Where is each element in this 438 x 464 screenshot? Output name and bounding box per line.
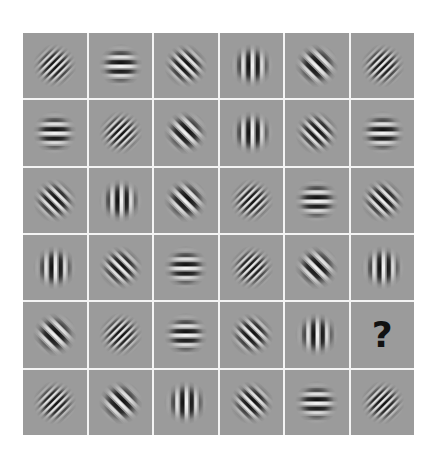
gabor-patch-icon — [285, 100, 349, 165]
gabor-cell[interactable] — [285, 235, 349, 300]
gabor-cell[interactable] — [23, 33, 87, 98]
gabor-cell[interactable] — [220, 33, 284, 98]
gabor-patch-icon — [23, 100, 87, 165]
gabor-patch-icon — [220, 33, 284, 98]
gabor-patch-icon — [220, 100, 284, 165]
gabor-cell[interactable] — [285, 33, 349, 98]
gabor-patch-icon — [220, 302, 284, 367]
gabor-patch-icon — [154, 168, 218, 233]
gabor-cell[interactable] — [23, 100, 87, 165]
gabor-patch-icon — [220, 235, 284, 300]
gabor-patch-icon — [154, 235, 218, 300]
gabor-patch-icon — [23, 33, 87, 98]
gabor-cell[interactable] — [285, 370, 349, 435]
gabor-patch-icon — [89, 33, 153, 98]
gabor-cell[interactable] — [351, 370, 415, 435]
gabor-cell[interactable] — [154, 302, 218, 367]
answer-cell[interactable]: ? — [351, 302, 415, 367]
gabor-cell[interactable] — [285, 302, 349, 367]
gabor-patch-icon — [89, 235, 153, 300]
gabor-patch-icon — [351, 33, 415, 98]
gabor-patch-icon — [285, 235, 349, 300]
gabor-cell[interactable] — [89, 302, 153, 367]
gabor-cell[interactable] — [351, 33, 415, 98]
gabor-cell[interactable] — [154, 370, 218, 435]
gabor-patch-icon — [154, 370, 218, 435]
gabor-cell[interactable] — [220, 168, 284, 233]
gabor-patch-icon — [23, 168, 87, 233]
gabor-cell[interactable] — [220, 235, 284, 300]
gabor-cell[interactable] — [154, 100, 218, 165]
gabor-patch-icon — [89, 370, 153, 435]
gabor-patch-icon — [351, 235, 415, 300]
gabor-cell[interactable] — [89, 33, 153, 98]
question-mark-icon: ? — [351, 302, 415, 367]
gabor-cell[interactable] — [154, 235, 218, 300]
gabor-cell[interactable] — [89, 100, 153, 165]
gabor-patch-icon — [351, 370, 415, 435]
gabor-cell[interactable] — [89, 235, 153, 300]
gabor-cell[interactable] — [89, 370, 153, 435]
gabor-cell[interactable] — [285, 100, 349, 165]
gabor-cell[interactable] — [154, 33, 218, 98]
gabor-patch-icon — [154, 302, 218, 367]
gabor-cell[interactable] — [23, 370, 87, 435]
gabor-cell[interactable] — [285, 168, 349, 233]
gabor-patch-grid: ? — [23, 33, 414, 435]
gabor-patch-icon — [89, 302, 153, 367]
gabor-patch-icon — [220, 168, 284, 233]
gabor-patch-icon — [154, 100, 218, 165]
gabor-cell[interactable] — [23, 235, 87, 300]
gabor-cell[interactable] — [220, 370, 284, 435]
gabor-cell[interactable] — [220, 100, 284, 165]
gabor-patch-icon — [23, 370, 87, 435]
gabor-patch-icon — [351, 168, 415, 233]
gabor-cell[interactable] — [154, 168, 218, 233]
gabor-patch-icon — [23, 235, 87, 300]
gabor-patch-icon — [285, 168, 349, 233]
gabor-patch-icon — [23, 302, 87, 367]
gabor-patch-icon — [285, 370, 349, 435]
gabor-patch-icon — [89, 100, 153, 165]
gabor-cell[interactable] — [220, 302, 284, 367]
gabor-cell[interactable] — [89, 168, 153, 233]
gabor-patch-icon — [285, 33, 349, 98]
gabor-cell[interactable] — [351, 100, 415, 165]
gabor-patch-icon — [285, 302, 349, 367]
gabor-patch-icon — [89, 168, 153, 233]
gabor-patch-icon — [351, 100, 415, 165]
gabor-cell[interactable] — [351, 168, 415, 233]
gabor-cell[interactable] — [351, 235, 415, 300]
gabor-cell[interactable] — [23, 168, 87, 233]
gabor-patch-icon — [220, 370, 284, 435]
gabor-cell[interactable] — [23, 302, 87, 367]
gabor-patch-icon — [154, 33, 218, 98]
